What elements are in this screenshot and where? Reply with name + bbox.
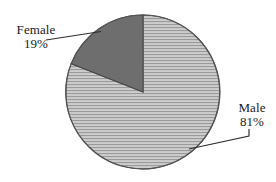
slice-label-female: Female 19% [11,23,61,51]
slice-label-male-percent: 81% [231,115,273,129]
slice-label-male-name: Male [231,101,273,115]
slice-label-male: Male 81% [231,101,273,129]
pie-chart-figure: Female 19% Male 81% [0,0,276,182]
slice-label-female-percent: 19% [11,37,61,51]
slice-label-female-name: Female [11,23,61,37]
